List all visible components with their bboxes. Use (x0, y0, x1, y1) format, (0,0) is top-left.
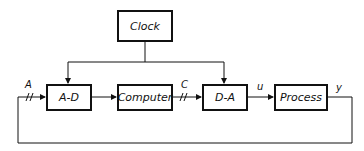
ad-label: A-D (59, 91, 79, 104)
signal-a-label: A (25, 79, 32, 90)
computer-label: Computer (118, 91, 173, 104)
ad-converter-block: A-D (46, 84, 92, 111)
process-label: Process (280, 91, 322, 104)
computer-block: Computer (117, 84, 173, 111)
da-label: D-A (215, 91, 235, 104)
da-converter-block: D-A (202, 84, 248, 111)
signal-u-label: u (257, 81, 263, 92)
process-block: Process (274, 84, 328, 111)
connection-lines (0, 0, 364, 151)
clock-block: Clock (117, 10, 173, 42)
clock-label: Clock (130, 20, 160, 33)
signal-c-label: C (181, 79, 188, 90)
signal-y-label: y (336, 82, 342, 93)
